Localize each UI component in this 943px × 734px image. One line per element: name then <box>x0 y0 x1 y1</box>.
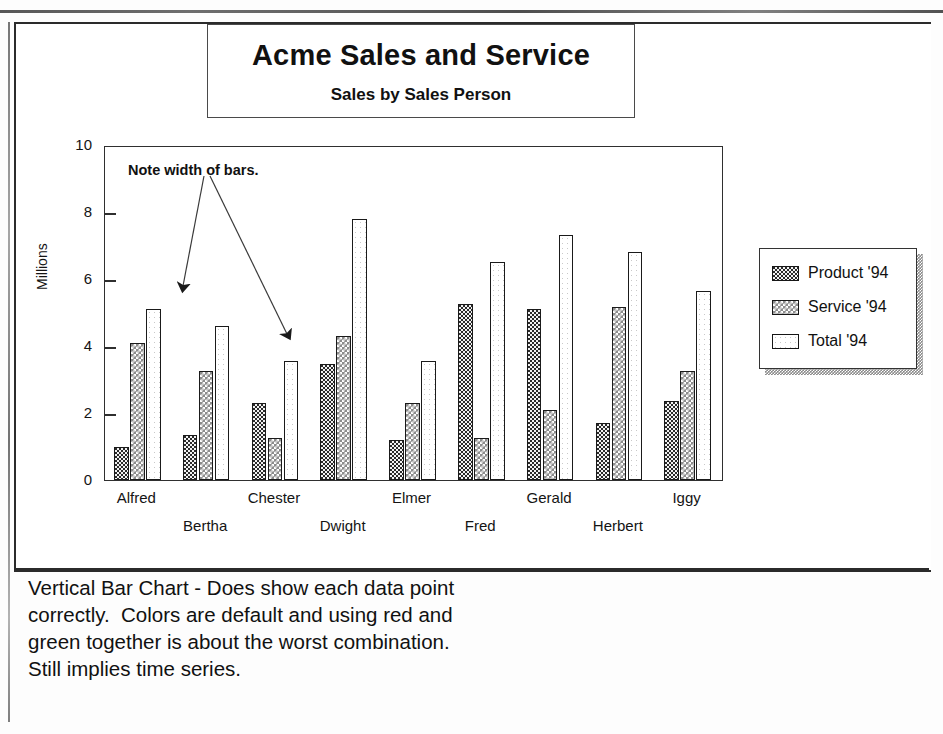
chart-legend: Product '94Service '94Total '94 <box>759 248 917 369</box>
empty-swatch <box>772 334 799 349</box>
chart-subtitle: Sales by Sales Person <box>208 85 634 105</box>
y-tick-label: 0 <box>52 471 92 488</box>
scanned-page: Acme Sales and Service Sales by Sales Pe… <box>0 0 943 734</box>
caption-line: green together is about the worst combin… <box>28 628 648 655</box>
legend-item: Total '94 <box>772 328 867 354</box>
y-tick-label: 10 <box>52 136 92 153</box>
scan-edge-left <box>8 22 10 722</box>
legend-label: Total '94 <box>808 332 867 350</box>
annotation-arrows <box>104 146 723 481</box>
dark-checker-swatch <box>772 266 799 281</box>
legend-label: Product '94 <box>808 264 888 282</box>
x-tick-label: Fred <box>430 517 530 534</box>
section-divider <box>14 568 929 570</box>
x-tick-label: Elmer <box>362 489 462 506</box>
x-tick-label: Gerald <box>499 489 599 506</box>
x-tick-label: Alfred <box>86 489 186 506</box>
legend-label: Service '94 <box>808 298 887 316</box>
legend-item: Product '94 <box>772 260 888 286</box>
caption-line: correctly. Colors are default and using … <box>28 601 648 628</box>
x-tick-label: Iggy <box>637 489 737 506</box>
legend-item: Service '94 <box>772 294 887 320</box>
caption-text: Vertical Bar Chart - Does show each data… <box>28 574 648 682</box>
chart-title: Acme Sales and Service <box>208 39 634 72</box>
annotation-text: Note width of bars. <box>128 162 259 178</box>
y-tick-label: 2 <box>52 404 92 421</box>
y-tick-label: 4 <box>52 337 92 354</box>
light-checker-swatch <box>772 300 799 315</box>
caption-line: Still implies time series. <box>28 655 648 682</box>
x-tick-label: Bertha <box>155 517 255 534</box>
y-tick-label: 6 <box>52 270 92 287</box>
y-tick-label: 8 <box>52 203 92 220</box>
title-box: Acme Sales and Service Sales by Sales Pe… <box>207 24 635 118</box>
y-axis-title: Millions <box>34 243 50 290</box>
caption-line: Vertical Bar Chart - Does show each data… <box>28 574 648 601</box>
scan-edge-top <box>0 10 943 13</box>
x-tick-label: Dwight <box>293 517 393 534</box>
x-tick-label: Chester <box>224 489 324 506</box>
x-tick-label: Herbert <box>568 517 668 534</box>
